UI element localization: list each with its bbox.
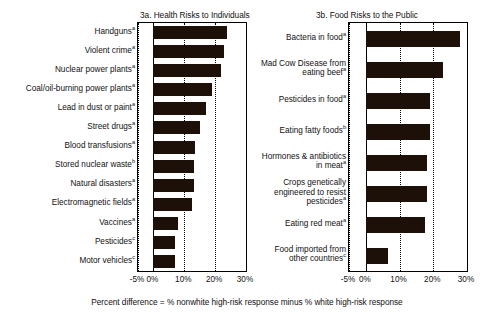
bar <box>153 179 193 192</box>
bar <box>153 45 224 58</box>
footnote-marker: a <box>132 82 135 88</box>
category-label: Coal/oil-burning power plantsa <box>2 84 135 94</box>
bar <box>153 121 199 134</box>
category-label: Eating fatty foodsb <box>252 126 346 136</box>
category-label: Blood transfusionsa <box>2 141 135 151</box>
footnote-marker: a <box>343 217 346 223</box>
category-label: Vaccinesa <box>2 218 135 228</box>
category-label: Lead in dust or painta <box>2 103 135 113</box>
footnote-marker: a <box>132 197 135 203</box>
footnote-marker: b <box>132 159 135 165</box>
panel-a-plot-area <box>137 22 247 272</box>
figure-caption: Percent difference = % nonwhite high-ris… <box>0 297 494 307</box>
x-tick-label: 20% <box>206 275 222 284</box>
bar <box>153 141 195 154</box>
bar <box>153 64 221 77</box>
category-label: Pesticides in fooda <box>252 95 346 105</box>
panel-b-title: 3b. Food Risks to the Public <box>316 10 418 20</box>
panel-a-title: 3a. Health Risks to Individuals <box>140 10 250 20</box>
panel-b-plot-area <box>348 22 468 272</box>
footnote-marker: a <box>132 178 135 184</box>
category-label: Violent crimea <box>2 46 135 56</box>
bar <box>366 217 425 233</box>
footnote-marker: a <box>343 93 346 99</box>
category-label: Mad Cow Disease fromeating beefa <box>252 59 346 78</box>
footnote-marker: a <box>343 196 346 202</box>
bar <box>153 236 175 249</box>
footnote-marker: c <box>132 235 135 241</box>
category-label: Pesticidesc <box>2 237 135 247</box>
x-tick-label: 0% <box>147 275 159 284</box>
x-tick-label: -5% <box>130 275 145 284</box>
panel-b-category-labels: Bacteria in foodaMad Cow Disease fromeat… <box>252 22 346 272</box>
x-tick-label: 10% <box>175 275 191 284</box>
footnote-marker: a <box>343 67 346 73</box>
bar <box>366 124 430 140</box>
bar <box>366 186 427 202</box>
footnote-marker: a <box>343 160 346 166</box>
bar <box>366 62 444 78</box>
footnote-marker: a <box>132 44 135 50</box>
x-tick-label: 30% <box>458 275 474 284</box>
bar <box>153 255 175 268</box>
category-label: Hormones & antibioticsin meata <box>252 152 346 171</box>
figure-two-panel-bar-charts: 3a. Health Risks to Individuals Handguns… <box>0 0 494 317</box>
category-label: Nuclear power plantsa <box>2 65 135 75</box>
footnote-marker: a <box>132 216 135 222</box>
footnote-marker: a <box>343 31 346 37</box>
x-tick-label: 0% <box>359 275 371 284</box>
x-tick-label: 20% <box>424 275 440 284</box>
footnote-marker: c <box>132 254 135 260</box>
panel-a-category-labels: HandgunsaViolent crimeaNuclear power pla… <box>2 22 135 272</box>
bar <box>366 31 460 47</box>
bar <box>366 155 427 171</box>
bar <box>153 198 192 211</box>
x-tick-label: -5% <box>341 275 356 284</box>
bar <box>153 160 193 173</box>
footnote-marker: a <box>132 120 135 126</box>
bar <box>366 93 430 109</box>
bar <box>366 248 388 264</box>
bar <box>153 217 178 230</box>
category-label: Handgunsa <box>2 27 135 37</box>
category-label: Motor vehiclesc <box>2 256 135 266</box>
panel-a-bars <box>138 23 246 271</box>
bar <box>153 83 212 96</box>
category-label: Electromagnetic fieldsa <box>2 198 135 208</box>
footnote-marker: c <box>343 253 346 259</box>
bar <box>153 26 227 39</box>
footnote-marker: a <box>132 101 135 107</box>
x-tick-label: 10% <box>390 275 406 284</box>
panel-a-x-axis-ticks: -5%0%10%20%30% <box>120 275 265 287</box>
category-label: Food imported fromother countriesc <box>252 245 346 264</box>
category-label: Stored nuclear wasteb <box>2 160 135 170</box>
bar <box>153 102 205 115</box>
footnote-marker: a <box>132 63 135 69</box>
category-label: Street drugsa <box>2 122 135 132</box>
footnote-marker: a <box>132 25 135 31</box>
category-label: Bacteria in fooda <box>252 33 346 43</box>
panel-b-bars <box>349 23 467 271</box>
footnote-marker: b <box>343 124 346 130</box>
panel-food-risks: 3b. Food Risks to the Public Bacteria in… <box>250 0 494 295</box>
panel-health-risks: 3a. Health Risks to Individuals Handguns… <box>0 0 250 295</box>
panel-b-x-axis-ticks: -5%0%10%20%30% <box>330 275 485 287</box>
category-label: Crops geneticallyengineered to resistpes… <box>252 178 346 207</box>
category-label: Natural disastersa <box>2 179 135 189</box>
footnote-marker: a <box>132 139 135 145</box>
category-label: Eating red meata <box>252 219 346 229</box>
